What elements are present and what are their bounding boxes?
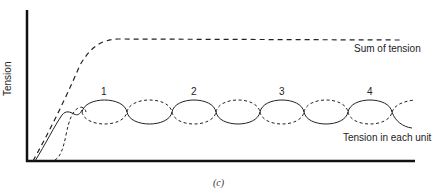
figure-caption: (c) xyxy=(213,177,224,188)
unit-solid-rise xyxy=(35,110,82,161)
sum-of-tension-label: Sum of tension xyxy=(354,43,421,54)
unit-label-3: 3 xyxy=(279,86,285,97)
unit-label-4: 4 xyxy=(367,86,373,97)
unit-label-1: 1 xyxy=(101,86,107,97)
unit-dashed-rise xyxy=(55,107,86,160)
tension-each-unit-label: Tension in each unit xyxy=(343,132,431,143)
unit-label-2: 2 xyxy=(191,86,197,97)
unit-tension-loops xyxy=(82,100,415,128)
y-axis-label: Tension xyxy=(2,62,13,96)
diagram-canvas xyxy=(0,0,433,195)
